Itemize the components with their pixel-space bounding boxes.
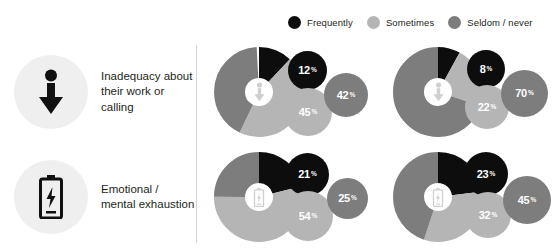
bubble-value-seldom-never: 25 [338,193,350,204]
bubble-frequently: 8% [467,50,505,88]
bubble-seldom-never: 45% [503,176,551,224]
legend-item-seldom-never: Seldom / never [448,16,532,29]
row-header-inadequacy: Inadequacy about their work or calling [0,40,196,144]
chart-cell-inadequacy-group-1: 12% 45% 42% [196,40,375,144]
row-header-exhaustion: Emotional / mental exhaustion [0,145,196,249]
bubble-percent-sign: % [351,195,357,202]
bubble-frequently: 21% [286,153,329,196]
bubble-value-seldom-never: 70 [515,88,527,99]
row-label-inadequacy: Inadequacy about their work or calling [101,69,196,115]
legend-swatch-frequently [288,16,301,29]
bubble-seldom-never: 42% [324,73,368,117]
chart-cell-exhaustion-group-2: 23% 32% 45% [375,145,554,249]
bubble-value-frequently: 12 [298,65,310,76]
bubble-value-frequently: 23 [477,169,489,180]
bubble-frequently: 23% [464,152,508,196]
legend-swatch-sometimes [367,16,380,29]
bubble-percent-sign: % [311,171,317,178]
chart-rows: Inadequacy about their work or calling [0,40,554,249]
bubble-value-sometimes: 22 [478,102,490,113]
bubble-percent-sign: % [491,104,497,111]
legend-item-frequently: Frequently [288,16,353,29]
bubble-sometimes: 54% [283,191,333,241]
legend-label-seldom-never: Seldom / never [467,17,532,28]
chart-cells-row-2: 21% 54% 25% [196,145,554,249]
bubble-percent-sign: % [492,212,498,219]
bubble-value-frequently: 21 [298,169,310,180]
bubble-value-sometimes: 45 [299,107,311,118]
legend-label-frequently: Frequently [307,17,353,28]
bubble-seldom-never: 25% [327,178,368,219]
chart-legend: Frequently Sometimes Seldom / never [288,16,533,29]
bubble-percent-sign: % [312,213,318,220]
legend-label-sometimes: Sometimes [386,17,434,28]
bubble-percent-sign: % [528,90,534,97]
chart-row-inadequacy: Inadequacy about their work or calling [0,40,554,144]
bubble-percent-sign: % [350,92,356,99]
person-down-arrow-icon [14,55,88,129]
chart-cell-inadequacy-group-2: 8% 22% 70% [375,40,554,144]
bubble-percent-sign: % [311,67,317,74]
bubble-value-seldom-never: 45 [518,195,530,206]
bubble-percent-sign: % [490,171,496,178]
bubble-seldom-never: 70% [501,70,548,117]
bubble-value-sometimes: 54 [299,211,311,222]
legend-item-sometimes: Sometimes [367,16,434,29]
battery-bolt-icon [14,160,88,234]
bubble-frequently: 12% [288,51,327,90]
bubble-percent-sign: % [531,197,537,204]
legend-swatch-seldom-never [448,16,461,29]
chart-cells-row-1: 12% 45% 42% [196,40,554,144]
bubble-percent-sign: % [487,66,493,73]
bubble-value-frequently: 8 [480,64,486,75]
row-label-exhaustion: Emotional / mental exhaustion [101,182,196,212]
bubble-percent-sign: % [312,109,318,116]
bubble-value-seldom-never: 42 [337,90,349,101]
chart-row-exhaustion: Emotional / mental exhaustion [0,145,554,249]
bubble-value-sometimes: 32 [479,210,491,221]
chart-cell-exhaustion-group-1: 21% 54% 25% [196,145,375,249]
